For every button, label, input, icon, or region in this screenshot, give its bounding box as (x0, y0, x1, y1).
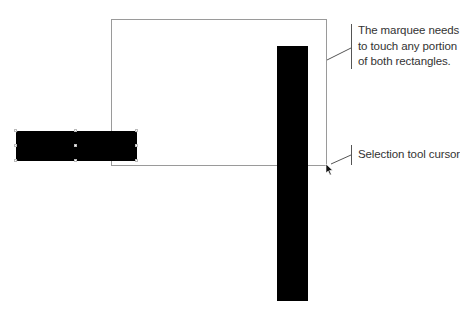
callout-line: to touch any portion (358, 39, 459, 55)
callout-bracket (351, 24, 352, 69)
callout-bracket (351, 145, 352, 165)
arrow-pointer-icon (326, 164, 333, 175)
callout-line: The marquee needs (358, 23, 459, 39)
callout-marquee-note: The marquee needs to touch any portion o… (358, 23, 459, 70)
callout-line: of both rectangles. (358, 54, 459, 70)
callout-cursor-note: Selection tool cursor (358, 147, 460, 163)
callout-line: Selection tool cursor (358, 147, 460, 163)
